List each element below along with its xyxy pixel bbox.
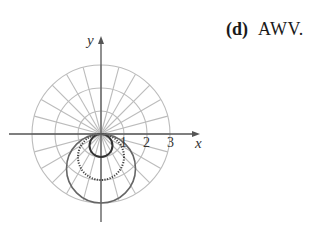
x-tick-2: 2 — [143, 135, 150, 150]
grid-spoke — [101, 116, 168, 134]
caption-label: (d) — [226, 19, 248, 39]
x-tick-3: 3 — [167, 135, 174, 150]
y-axis-arrow-icon — [98, 36, 104, 44]
grid-spoke — [101, 67, 119, 134]
caption: (d)AWV. — [226, 19, 304, 40]
y-axis-label: y — [85, 32, 94, 48]
grid-spoke — [83, 67, 101, 134]
x-axis-label: x — [194, 135, 202, 151]
grid-spoke — [34, 116, 101, 134]
grid-spoke — [101, 134, 119, 201]
x-tick-1: 1 — [120, 135, 127, 150]
grid-spoke — [83, 134, 101, 201]
caption-answer: AWV. — [258, 19, 304, 39]
